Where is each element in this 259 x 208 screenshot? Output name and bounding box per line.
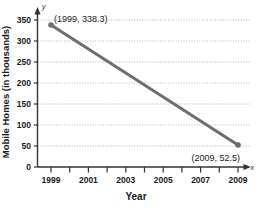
- x-tick-label-2009: 2009: [229, 175, 248, 185]
- y-axis-title: Mobile Homes (in thousands): [0, 26, 11, 158]
- y-tick-label-50: 50: [22, 141, 32, 151]
- y-axis-letter: y: [41, 3, 46, 11]
- y-tick-label-300: 300: [17, 36, 31, 46]
- data-point-1999: [48, 22, 54, 28]
- y-tick-label-250: 250: [17, 57, 31, 67]
- x-tick-label-2001: 2001: [79, 175, 98, 185]
- data-point-2009: [235, 142, 241, 148]
- x-axis-letter: x: [250, 164, 255, 171]
- x-tick-label-2007: 2007: [191, 175, 210, 185]
- y-tick-label-0: 0: [26, 162, 31, 172]
- y-tick-label-150: 150: [17, 99, 31, 109]
- x-tick-label-2003: 2003: [116, 175, 135, 185]
- x-axis-title: Year: [125, 191, 146, 202]
- annotation-1999: (1999, 338.3): [54, 14, 108, 24]
- y-tick-label-350: 350: [17, 15, 31, 25]
- y-tick-label-100: 100: [17, 120, 31, 130]
- x-tick-label-2005: 2005: [154, 175, 173, 185]
- line-chart: 350 300 250 200 150 100 50 0 1999 2001 2…: [0, 0, 259, 208]
- annotation-2009: (2009, 52.5): [191, 153, 240, 163]
- x-tick-label-1999: 1999: [42, 175, 61, 185]
- y-tick-label-200: 200: [17, 78, 31, 88]
